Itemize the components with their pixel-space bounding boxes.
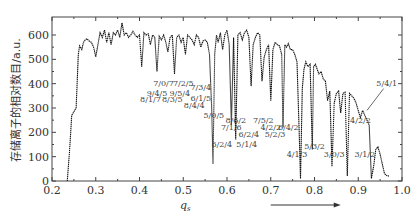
dip-annotation: 7/3/4 [190, 83, 211, 92]
x-tick-label: 0.8 [306, 184, 324, 197]
dip-annotation: 5/4/1 [376, 79, 397, 88]
x-tick-label: 0.3 [87, 184, 105, 197]
chart-svg: 0100200300400500600 0.20.30.40.50.60.70.… [0, 0, 418, 223]
arrow-head-icon [334, 203, 341, 208]
dip-annotation: 3/0/3 [324, 150, 345, 159]
dip-annotation: 5/2/3 [265, 130, 286, 139]
dip-annotation: 8/3/5 [162, 95, 183, 104]
y-tick-label: 200 [28, 126, 49, 139]
dip-annotation: 7/0/7 [153, 79, 174, 88]
dip-annotation: 3/1/2 [354, 150, 375, 159]
dip-annotation: 6/2/4 [211, 140, 232, 149]
x-tick-label: 0.7 [262, 184, 280, 197]
dip-annotation: 5/1/4 [236, 140, 257, 149]
x-tick-label: 1.0 [393, 184, 411, 197]
dip-annotation: 8/1/7 [140, 95, 161, 104]
x-tick-label: 0.6 [218, 184, 236, 197]
dip-annotation: 4/2/2 [350, 116, 371, 125]
dip-annotation: 8/4/4 [184, 101, 205, 110]
x-axis-label: qs [180, 199, 191, 213]
y-tick-label: 400 [28, 78, 49, 91]
dip-annotation: 5/3/2 [304, 142, 325, 151]
x-tick-label: 0.4 [131, 184, 149, 197]
x-axis: 0.20.30.40.50.60.70.80.91.0 [43, 17, 411, 197]
x-tick-label: 0.5 [175, 184, 193, 197]
annotations: 7/0/77/2/59/4/59/5/48/1/78/3/57/3/46/1/5… [140, 79, 397, 159]
y-tick-label: 600 [28, 29, 49, 42]
x-axis-label-group: qs [180, 199, 341, 213]
x-tick-label: 0.2 [43, 184, 61, 197]
dip-annotation: 5/0/5 [204, 111, 225, 120]
y-tick-label: 300 [28, 102, 49, 115]
x-tick-label: 0.9 [350, 184, 368, 197]
y-tick-label: 500 [28, 53, 49, 66]
y-tick-label: 100 [28, 151, 49, 164]
dip-annotation: 6/2/4 [239, 130, 260, 139]
y-axis-label: 存储离子的相对数目/a.u. [9, 38, 23, 161]
